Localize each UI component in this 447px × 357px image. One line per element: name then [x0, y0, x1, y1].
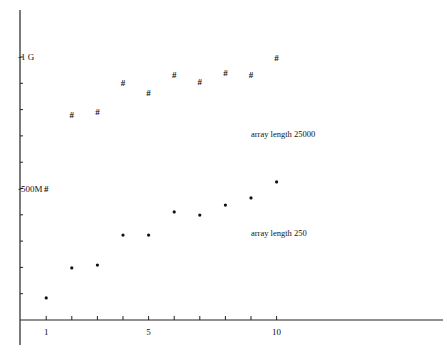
annotations: array length 25000array length 250 [251, 129, 315, 238]
data-point-dot [249, 196, 252, 199]
data-point-dot [147, 233, 150, 236]
data-point-hash: # [121, 78, 126, 88]
data-point-dot [121, 233, 124, 236]
series-layer: ########## [44, 53, 279, 299]
data-point-hash: # [172, 70, 177, 80]
y-tick-label: -500M [18, 184, 43, 194]
x-tick-label: 1 [44, 327, 49, 337]
data-point-hash: # [70, 110, 75, 120]
y-tick-label: -1 G [18, 52, 35, 62]
data-point-hash: # [249, 70, 254, 80]
data-point-hash: # [95, 107, 100, 117]
axes [20, 10, 443, 345]
data-point-hash: # [146, 88, 151, 98]
data-point-hash: # [44, 184, 49, 194]
data-point-dot [173, 210, 176, 213]
data-point-dot [45, 296, 48, 299]
data-point-dot [70, 266, 73, 269]
data-point-hash: # [274, 53, 279, 63]
data-point-dot [275, 180, 278, 183]
series-annotation: array length 25000 [251, 129, 315, 139]
series-array-length-250 [45, 180, 279, 299]
data-point-hash: # [223, 68, 228, 78]
series-annotation: array length 250 [251, 228, 307, 238]
x-tick-label: 5 [146, 327, 151, 337]
data-point-hash: # [198, 77, 203, 87]
chart: 1510-1 G-500M ########## array length 25… [0, 0, 447, 357]
series-array-length-25000: ########## [44, 53, 279, 193]
data-point-dot [224, 203, 227, 206]
x-tick-label: 10 [272, 327, 282, 337]
data-point-dot [96, 263, 99, 266]
data-point-dot [198, 213, 201, 216]
